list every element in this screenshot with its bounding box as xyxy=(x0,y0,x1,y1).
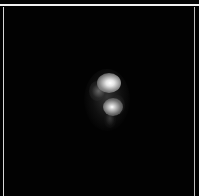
lower-tail-glow xyxy=(104,112,116,128)
primary-bright-spot xyxy=(97,73,121,93)
top-divider xyxy=(0,4,199,6)
right-lobe-glow xyxy=(111,95,125,115)
image-frame xyxy=(3,7,195,196)
secondary-bright-spot xyxy=(103,98,123,116)
left-lobe-glow xyxy=(89,81,105,101)
diffuse-halo xyxy=(84,69,130,131)
